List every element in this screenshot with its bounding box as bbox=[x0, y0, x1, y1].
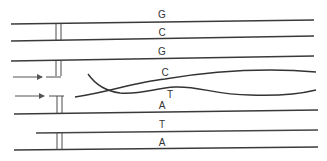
base-label-c2: C bbox=[161, 67, 168, 78]
base-label-g1: G bbox=[158, 9, 166, 20]
base-label-c1: C bbox=[158, 27, 165, 38]
dna-diagram: G C G C T A T A bbox=[0, 0, 327, 161]
strand-t-curved bbox=[88, 74, 316, 95]
base-label-t2: T bbox=[159, 119, 165, 130]
strand-g-top bbox=[11, 20, 314, 24]
base-label-a2: A bbox=[159, 137, 166, 148]
strand-a-middle bbox=[14, 110, 318, 114]
strand-a-bottom bbox=[14, 147, 318, 150]
strand-c-curved bbox=[75, 70, 316, 97]
strand-t-bottom bbox=[36, 130, 318, 133]
base-label-a1: A bbox=[159, 100, 166, 111]
base-label-g2: G bbox=[158, 46, 166, 57]
base-label-t1: T bbox=[167, 89, 173, 100]
